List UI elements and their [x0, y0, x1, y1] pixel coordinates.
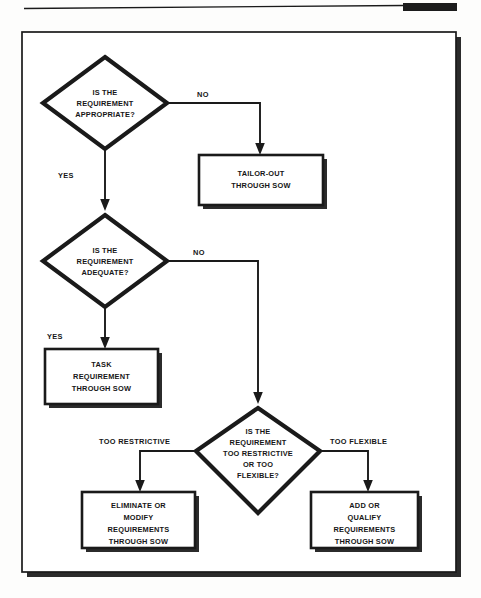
node-process-add-or-qualify-requirements[interactable]: ADD OR QUALIFY REQUIREMENTS THROUGH SOW	[311, 492, 422, 552]
task-requirement-line-2: REQUIREMENT	[73, 372, 130, 381]
tailor-out-line-2: THROUGH SOW	[231, 181, 290, 190]
edge-label-too-flexible: TOO FLEXIBLE	[330, 437, 387, 446]
decision3-line-2: REQUIREMENT	[230, 438, 287, 447]
decision3-line-5: FLEXIBLE?	[237, 471, 279, 480]
decision2-line-1: IS THE	[92, 246, 117, 255]
tailor-out-line-1: TAILOR-OUT	[237, 169, 284, 178]
decision3-line-1: IS THE	[245, 427, 270, 436]
add-qualify-line-3: REQUIREMENTS	[334, 525, 396, 534]
decision3-line-4: OR TOO	[243, 460, 273, 469]
add-qualify-line-1: ADD OR	[349, 501, 380, 510]
decision3-line-3: TOO RESTRICTIVE	[223, 449, 293, 458]
add-qualify-line-2: QUALIFY	[348, 513, 382, 522]
eliminate-modify-line-1: ELIMINATE OR	[111, 501, 166, 510]
eliminate-modify-line-3: REQUIREMENTS	[108, 525, 170, 534]
edge-label-yes-2: YES	[47, 332, 63, 341]
node-process-tailor-out-through-sow[interactable]: TAILOR-OUT THROUGH SOW	[199, 155, 327, 209]
task-requirement-line-1: TASK	[91, 360, 112, 369]
decision2-line-2: REQUIREMENT	[77, 257, 134, 266]
node-process-eliminate-or-modify-requirements[interactable]: ELIMINATE OR MODIFY REQUIREMENTS THROUGH…	[82, 492, 199, 552]
eliminate-modify-line-4: THROUGH SOW	[109, 537, 168, 546]
flowchart-diagram: NO YES NO YES TOO RESTRICTIVE TOO FLEXIB…	[0, 0, 481, 598]
edge-label-no-2: NO	[193, 248, 205, 257]
eliminate-modify-line-2: MODIFY	[124, 513, 154, 522]
add-qualify-line-4: THROUGH SOW	[335, 537, 394, 546]
page-canvas: NO YES NO YES TOO RESTRICTIVE TOO FLEXIB…	[0, 0, 481, 598]
node-process-task-requirement-through-sow[interactable]: TASK REQUIREMENT THROUGH SOW	[45, 349, 162, 408]
decision2-line-3: ADEQUATE?	[81, 268, 129, 277]
decision1-line-1: IS THE	[92, 88, 117, 97]
edge-label-yes-1: YES	[58, 171, 74, 180]
edge-label-no-1: NO	[197, 90, 209, 99]
edge-label-too-restrictive: TOO RESTRICTIVE	[99, 437, 170, 446]
task-requirement-line-3: THROUGH SOW	[72, 384, 131, 393]
decision1-line-3: APPROPRIATE?	[75, 110, 135, 119]
header-thin-rule	[24, 6, 404, 9]
decision1-line-2: REQUIREMENT	[77, 99, 134, 108]
header-thick-block	[403, 3, 457, 11]
header-rule	[24, 3, 457, 11]
